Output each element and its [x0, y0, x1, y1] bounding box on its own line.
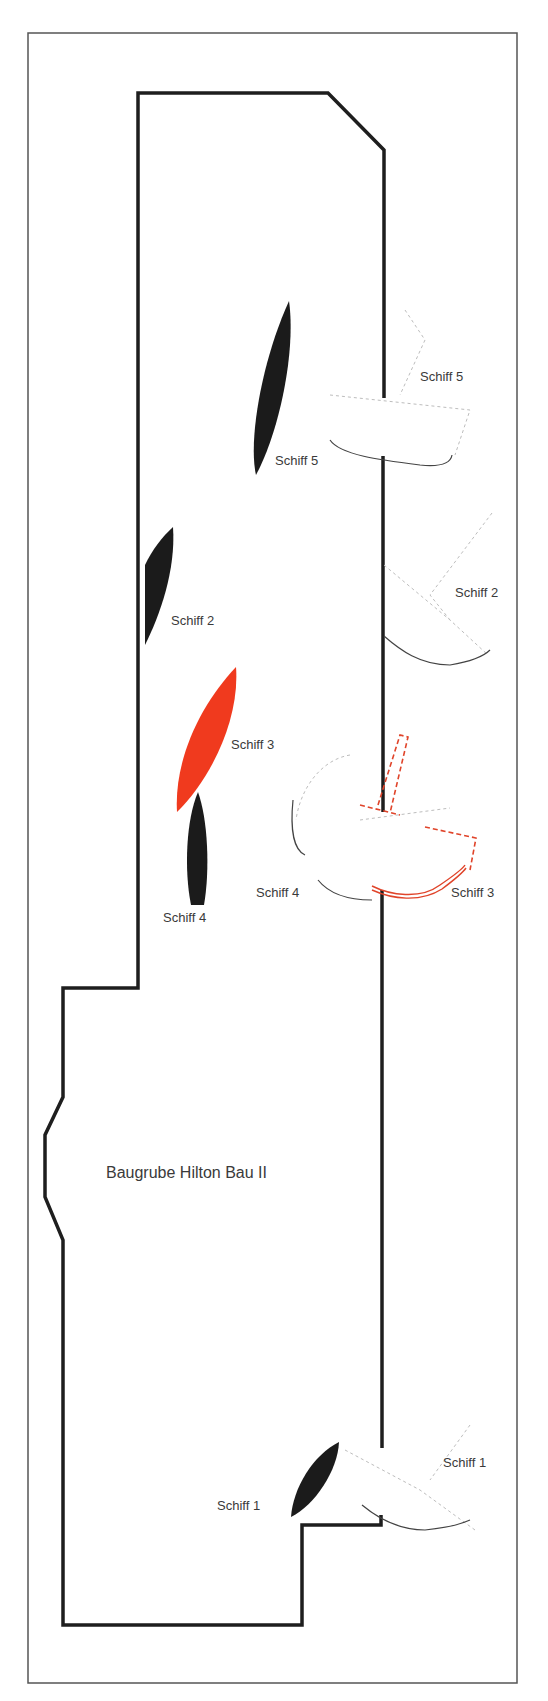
label-ship-5-inside: Schiff 5 — [275, 453, 318, 468]
ship-1-outline — [345, 1425, 475, 1530]
label-ship-3-outside: Schiff 3 — [451, 885, 494, 900]
label-ship-2-inside: Schiff 2 — [171, 613, 214, 628]
ship-2-hull — [145, 527, 173, 645]
ship-5-hull — [254, 301, 291, 475]
label-ship-3-inside: Schiff 3 — [231, 737, 274, 752]
label-ship-1-inside: Schiff 1 — [217, 1498, 260, 1513]
label-ship-4-inside: Schiff 4 — [163, 910, 206, 925]
ship-1-hull — [291, 1442, 339, 1517]
ship-3-hull — [177, 667, 237, 812]
site-label: Baugrube Hilton Bau II — [106, 1164, 267, 1181]
excavation-pit-outline — [45, 93, 384, 1625]
outer-frame — [28, 33, 517, 1683]
label-ship-5-outside: Schiff 5 — [420, 369, 463, 384]
ship-5-outline — [330, 310, 470, 466]
ship-3-outline — [360, 735, 476, 898]
ship-4-hull — [187, 792, 207, 905]
label-ship-4-outside: Schiff 4 — [256, 885, 299, 900]
label-ship-2-outside: Schiff 2 — [455, 585, 498, 600]
label-ship-1-outside: Schiff 1 — [443, 1455, 486, 1470]
site-plan-diagram: Schiff 5 Schiff 5 Schiff 2 Schiff 2 Schi… — [0, 0, 548, 1701]
